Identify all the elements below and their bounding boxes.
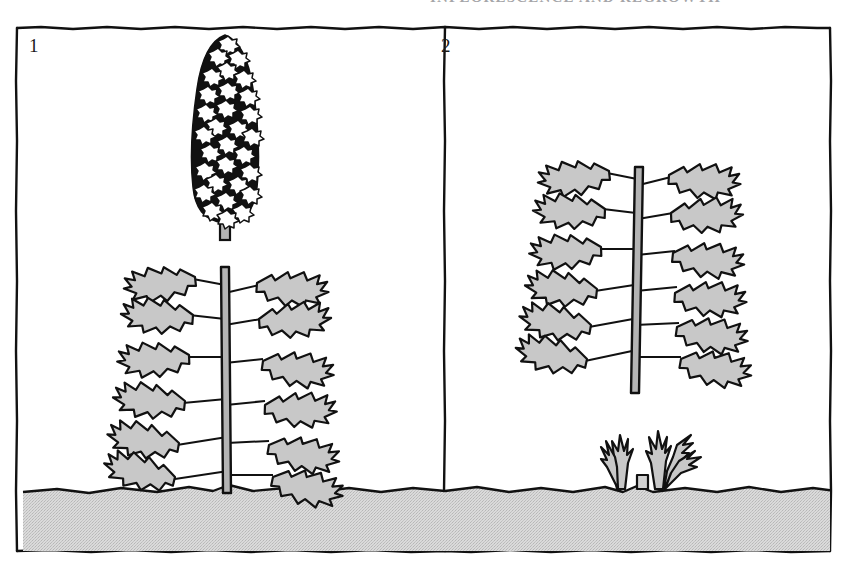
leafy-stem-plant-1	[100, 263, 346, 512]
flower-spike	[192, 35, 264, 229]
soil-band	[23, 485, 830, 551]
panel-2-artwork	[512, 157, 754, 489]
botanical-illustration	[17, 27, 830, 551]
figure-container: 1 2	[17, 27, 830, 551]
severed-leafy-stem	[512, 157, 754, 393]
cut-off-caption-strip: INFLORESCENCE AND REGROWTH	[0, 0, 857, 14]
caption-right-fragment: INFLORESCENCE AND REGROWTH	[430, 0, 721, 6]
panel-1-artwork	[100, 35, 346, 513]
stubble-regrowth	[601, 431, 701, 489]
cut-stump	[637, 475, 648, 489]
